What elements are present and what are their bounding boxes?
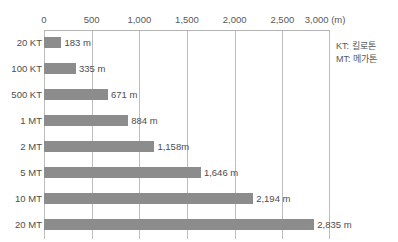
chart-row: 2 MT1,158m — [0, 134, 398, 160]
x-axis-tick-value: 3,000 — [305, 14, 329, 25]
x-axis-tick-value: 2,000 — [223, 14, 247, 25]
x-axis-tick-value: 2,500 — [270, 14, 294, 25]
category-label-20-mt: 20 MT — [15, 212, 42, 238]
legend-entry-1: MT: 메가톤 — [336, 53, 398, 66]
x-axis-tick-1000: 1,000 — [127, 13, 151, 26]
bar-10-mt — [44, 193, 253, 204]
bar-100-kt — [44, 63, 76, 74]
x-axis-tick-value: 500 — [84, 14, 100, 25]
category-label-1-mt: 1 MT — [20, 108, 42, 134]
x-axis-tick-500: 500 — [84, 13, 100, 26]
bar-20-mt — [44, 219, 314, 230]
category-label-5-mt: 5 MT — [20, 160, 42, 186]
bar-value-label: 2,194 m — [256, 186, 290, 212]
category-label-10-mt: 10 MT — [15, 186, 42, 212]
bar-1-mt — [44, 115, 128, 126]
chart-row: 500 KT671 m — [0, 82, 398, 108]
category-label-100-kt: 100 KT — [11, 56, 42, 82]
x-axis-tick-2000: 2,000 — [223, 13, 247, 26]
x-axis-unit-label: (m) — [329, 14, 346, 25]
x-axis-tick-2500: 2,500 — [270, 13, 294, 26]
legend: KT: 킬로톤MT: 메가톤 — [336, 40, 398, 66]
chart-row: 10 MT2,194 m — [0, 186, 398, 212]
legend-entry-0: KT: 킬로톤 — [336, 40, 398, 53]
chart-row: 5 MT1,646 m — [0, 160, 398, 186]
x-axis-tick-labels: 05001,0001,5002,0002,5003,000 (m) — [0, 13, 398, 28]
category-label-20-kt: 20 KT — [17, 30, 42, 56]
chart-row: 20 MT2,835 m — [0, 212, 398, 238]
x-axis-tick-0: 0 — [41, 13, 46, 26]
x-axis-tick-3000: 3,000 (m) — [305, 13, 346, 26]
category-label-500-kt: 500 KT — [11, 82, 42, 108]
chart-row: 1 MT884 m — [0, 108, 398, 134]
category-label-2-mt: 2 MT — [20, 134, 42, 160]
bar-5-mt — [44, 167, 201, 178]
bar-value-label: 183 m — [64, 30, 90, 56]
bar-500-kt — [44, 89, 108, 100]
x-axis-tick-value: 0 — [41, 14, 46, 25]
bar-value-label: 2,835 m — [317, 212, 351, 238]
x-axis-tick-1500: 1,500 — [175, 13, 199, 26]
bar-value-label: 1,646 m — [204, 160, 238, 186]
x-axis-tick-value: 1,500 — [175, 14, 199, 25]
x-axis-tick-value: 1,000 — [127, 14, 151, 25]
bar-20-kt — [44, 37, 61, 48]
bar-value-label: 335 m — [79, 56, 105, 82]
bar-value-label: 1,158m — [157, 134, 189, 160]
bar-value-label: 671 m — [111, 82, 137, 108]
bar-value-label: 884 m — [131, 108, 157, 134]
bar-chart: 05001,0001,5002,0002,5003,000 (m) 20 KT1… — [0, 0, 398, 242]
bar-2-mt — [44, 141, 154, 152]
